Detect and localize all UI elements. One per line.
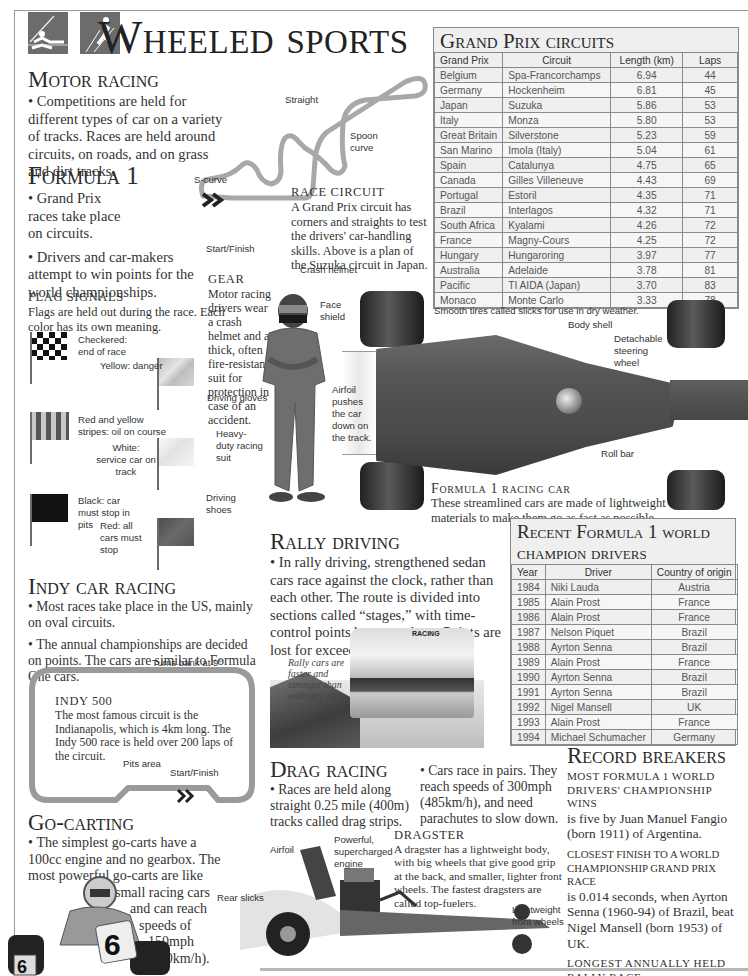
flag-pole — [157, 438, 159, 490]
gokart-heading: Go-carting — [28, 811, 248, 835]
table-cell: 5.04 — [611, 143, 683, 158]
table-row: HungaryHungaroring3.9777 — [435, 248, 738, 263]
table-cell: Imola (Italy) — [503, 143, 611, 158]
table-cell: France — [651, 715, 737, 730]
face-shield-label: Face shield — [320, 299, 350, 323]
table-cell: 5.80 — [611, 113, 683, 128]
indy-500-heading: Indy 500 — [55, 694, 235, 709]
table-row: CanadaGilles Villeneuve4.4369 — [435, 173, 738, 188]
table-cell: 1989 — [512, 655, 546, 670]
table-cell: 65 — [683, 158, 738, 173]
table-cell: 1986 — [512, 610, 546, 625]
table-cell: France — [651, 655, 737, 670]
table-cell: Hockenheim — [503, 83, 611, 98]
table-cell: Interlagos — [503, 203, 611, 218]
table-cell: 77 — [683, 248, 738, 263]
rally-heading: Rally driving — [270, 530, 510, 554]
table-cell: San Marino — [435, 143, 503, 158]
record-item: Most Formula 1 world drivers' championsh… — [567, 770, 743, 842]
table-row: 1984Niki LaudaAustria — [512, 580, 738, 595]
table-cell: Niki Lauda — [545, 580, 651, 595]
black-flag-icon — [31, 494, 68, 522]
table-cell: Japan — [435, 98, 503, 113]
table-cell: Nigel Mansell — [545, 700, 651, 715]
formula1-heading: Formula 1 — [28, 164, 218, 188]
table-cell: Great Britain — [435, 128, 503, 143]
start-finish-label: Start/Finish — [206, 243, 255, 255]
column-header: Year — [512, 565, 546, 580]
table-cell: 45 — [683, 83, 738, 98]
f1-car-heading: Formula 1 racing car — [431, 481, 681, 496]
formula1-point-1: Grand Prix races take place on circuits. — [28, 190, 126, 243]
flag-pole — [157, 518, 159, 570]
driving-gloves-label: Driving gloves — [207, 392, 267, 404]
formula1-section: Formula 1 Grand Prix races take place on… — [28, 164, 218, 301]
champions-table: Recent Formula 1 world champion drivers … — [510, 518, 736, 746]
table-cell: 81 — [683, 263, 738, 278]
table-cell: 61 — [683, 143, 738, 158]
table-cell: Gilles Villeneuve — [503, 173, 611, 188]
striped-flag-icon — [31, 412, 69, 440]
indy-point-1: Most races take place in the US, mainly … — [28, 599, 260, 631]
table-cell: 69 — [683, 173, 738, 188]
table-cell: 72 — [683, 218, 738, 233]
table-cell: Ayrton Senna — [545, 640, 651, 655]
spoon-curve-label: Spoon curve — [350, 130, 380, 154]
table-cell: France — [435, 233, 503, 248]
table-row: JapanSuzuka5.8653 — [435, 98, 738, 113]
table-row: 1993Alain ProstFrance — [512, 715, 738, 730]
champions-table-title-line1: Recent Formula 1 world — [511, 519, 735, 541]
table-cell: 5.86 — [611, 98, 683, 113]
yellow-flag-icon — [158, 358, 194, 386]
red-flag-label: Red: all cars must stop — [100, 520, 148, 556]
table-cell: Kyalami — [503, 218, 611, 233]
table-cell: Ayrton Senna — [545, 670, 651, 685]
table-row: 1988Ayrton SennaBrazil — [512, 640, 738, 655]
gokart-line: 100cc engine and no gearbox. The — [28, 852, 248, 869]
rowing-pictogram-icon — [28, 12, 68, 54]
column-header: Laps — [683, 53, 738, 68]
table-cell: Germany — [435, 83, 503, 98]
kart-number: 6 — [104, 928, 121, 961]
table-cell: 1991 — [512, 685, 546, 700]
grand-prix-table-title: Grand Prix circuits — [434, 28, 738, 52]
table-cell: Portugal — [435, 188, 503, 203]
table-cell: Brazil — [435, 203, 503, 218]
record-breakers-heading: Record breakers — [567, 744, 743, 768]
table-cell: 1985 — [512, 595, 546, 610]
checkered-flag-icon — [31, 332, 67, 360]
steering-wheel-label: Detachable steering wheel — [614, 333, 664, 369]
table-cell: Monza — [503, 113, 611, 128]
rally-car-banner: RACING — [412, 630, 440, 637]
car-nose — [670, 380, 748, 420]
pits-area-label: Pits area — [123, 758, 161, 770]
drag-point-2: Cars race in pairs. They reach speeds of… — [420, 763, 565, 827]
front-left-tire — [667, 300, 725, 348]
grand-prix-circuits-table: Grand Prix circuits Grand Prix Circuit L… — [433, 27, 739, 309]
table-cell: 4.35 — [611, 188, 683, 203]
yellow-flag-label: Yellow: danger — [100, 360, 163, 372]
table-cell: 4.25 — [611, 233, 683, 248]
table-cell: Spain — [435, 158, 503, 173]
front-wheels-label: Lightweight front wheels — [512, 904, 568, 928]
table-cell: 4.43 — [611, 173, 683, 188]
rear-slicks-label: Rear slicks — [217, 892, 264, 904]
table-cell: 3.97 — [611, 248, 683, 263]
crash-helmet-label: Crash helmet — [300, 264, 357, 276]
column-header: Length (km) — [611, 53, 683, 68]
checkered-flag-label: Checkered: end of race — [78, 334, 138, 358]
table-row: 1991Ayrton SennaBrazil — [512, 685, 738, 700]
table-cell: France — [651, 595, 737, 610]
driver-helmet-top — [556, 388, 582, 414]
table-row: 1989Alain ProstFrance — [512, 655, 738, 670]
race-circuit-caption: Race circuit A Grand Prix circuit has co… — [291, 185, 431, 273]
table-cell: 3.78 — [611, 263, 683, 278]
table-cell: Austria — [651, 580, 737, 595]
table-cell: Spa-Francorchamps — [503, 68, 611, 83]
table-cell: TI AIDA (Japan) — [503, 278, 611, 293]
table-cell: 6.94 — [611, 68, 683, 83]
race-circuit-heading: Race circuit — [291, 185, 431, 200]
drag-point-1: Races are held along straight 0.25 mile … — [270, 782, 420, 830]
table-cell: Pacific — [435, 278, 503, 293]
rear-right-tire — [360, 462, 424, 510]
